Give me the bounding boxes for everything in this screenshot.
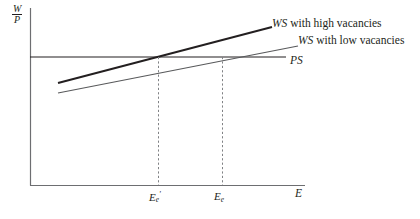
ws-high-vacancies-label-abbrev: WS (272, 17, 287, 29)
y-axis-label-denominator: P (12, 15, 22, 25)
x-tick-label-e-prime-base: E (149, 191, 156, 203)
x-tick-label-e: Ee (214, 190, 224, 204)
ws-high-vacancies-label: WS with high vacancies (272, 18, 382, 30)
x-axis-label: E (295, 188, 302, 200)
x-tick-label-e-prime: Ee' (149, 190, 161, 204)
x-tick-label-e-base: E (214, 190, 221, 202)
ws-high-vacancies-label-text: with high vacancies (287, 17, 381, 29)
x-tick-label-e-sub: e (221, 195, 224, 204)
ws-high-vacancies-curve (58, 27, 272, 83)
ws-low-vacancies-label-abbrev: WS (298, 34, 313, 46)
ws-low-vacancies-label-text: with low vacancies (313, 34, 404, 46)
ps-label: PS (290, 55, 303, 67)
y-axis-label: W P (12, 4, 22, 25)
plot-canvas (0, 0, 420, 219)
ws-low-vacancies-curve (58, 46, 298, 93)
x-tick-label-e-prime-sup: ' (159, 190, 161, 199)
economics-diagram: W P E WS with high vacancies WS with low… (0, 0, 420, 219)
ws-low-vacancies-label: WS with low vacancies (298, 35, 404, 47)
